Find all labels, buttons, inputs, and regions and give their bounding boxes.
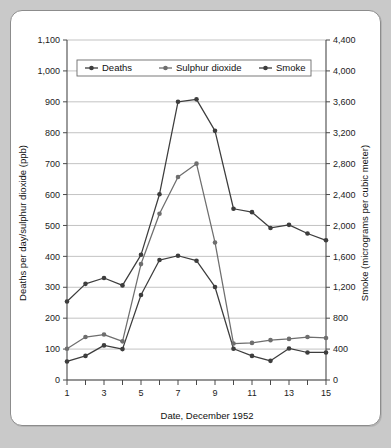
- data-point: [102, 332, 107, 337]
- data-point: [157, 211, 162, 216]
- data-point: [83, 282, 88, 287]
- left-tick-label: 700: [45, 159, 60, 169]
- x-tick-label: 15: [321, 388, 331, 398]
- left-tick-label: 800: [45, 128, 60, 138]
- right-axis-ticks: 04008001,2001,6002,0002,4002,8003,2003,6…: [326, 35, 356, 385]
- right-tick-label: 4,400: [333, 35, 356, 45]
- data-point: [231, 341, 236, 346]
- data-series: [65, 97, 329, 364]
- data-point: [83, 335, 88, 340]
- data-point: [157, 192, 162, 197]
- right-tick-label: 0: [333, 375, 338, 385]
- data-point: [65, 359, 70, 364]
- right-tick-label: 1,600: [333, 252, 356, 262]
- data-point: [139, 253, 144, 258]
- left-tick-label: 600: [45, 190, 60, 200]
- right-tick-label: 4,000: [333, 66, 356, 76]
- data-point: [324, 336, 329, 341]
- left-tick-label: 200: [45, 313, 60, 323]
- data-point: [194, 97, 199, 102]
- data-point: [120, 347, 125, 352]
- right-tick-label: 2,000: [333, 221, 356, 231]
- right-tick-label: 1,200: [333, 282, 356, 292]
- data-point: [287, 223, 292, 228]
- right-tick-label: 3,600: [333, 97, 356, 107]
- figure-card: 01002003004005006007008009001,0001,100 0…: [10, 10, 381, 426]
- data-point: [287, 337, 292, 342]
- data-point: [268, 338, 273, 343]
- right-tick-label: 2,800: [333, 159, 356, 169]
- axes: [67, 40, 326, 380]
- chart-legend: DeathsSulphur dioxideSmoke: [77, 60, 311, 76]
- x-axis-title: Date, December 1952: [161, 410, 254, 421]
- data-point: [102, 276, 107, 281]
- data-point: [250, 341, 255, 346]
- left-tick-label: 1,100: [37, 35, 60, 45]
- series-deaths: [65, 253, 329, 363]
- x-tick-label: 11: [247, 388, 256, 398]
- y2-axis-title: Smoke (micrograms per cubic meter): [359, 145, 370, 301]
- data-point: [194, 258, 199, 263]
- gridlines: [67, 40, 326, 380]
- legend-marker-dot: [163, 66, 168, 71]
- data-point: [157, 258, 162, 263]
- line-chart: 01002003004005006007008009001,0001,100 0…: [11, 11, 382, 427]
- left-axis-ticks: 01002003004005006007008009001,0001,100: [37, 35, 67, 385]
- data-point: [176, 253, 181, 258]
- legend-label-deaths: Deaths: [102, 62, 132, 73]
- data-point: [287, 346, 292, 351]
- legend-label-sulphur-dioxide: Sulphur dioxide: [176, 62, 242, 73]
- data-point: [65, 346, 70, 351]
- legend-marker-dot: [89, 66, 94, 71]
- data-point: [305, 335, 310, 340]
- x-tick-label: 13: [284, 388, 294, 398]
- chart-canvas: 01002003004005006007008009001,0001,100 0…: [11, 11, 382, 427]
- right-tick-label: 3,200: [333, 128, 356, 138]
- x-tick-label: 1: [64, 388, 69, 398]
- x-tick-label: 5: [138, 388, 143, 398]
- x-tick-label: 9: [212, 388, 217, 398]
- x-axis-ticks: 13579111315: [64, 380, 331, 398]
- data-point: [83, 354, 88, 359]
- data-point: [231, 206, 236, 211]
- data-point: [102, 343, 107, 348]
- data-point: [65, 299, 70, 304]
- data-point: [213, 240, 218, 245]
- series-smoke: [65, 97, 329, 304]
- data-point: [139, 262, 144, 267]
- data-point: [213, 285, 218, 290]
- y-axis-title: Deaths per day/sulphur dioxide (ppb): [17, 145, 28, 301]
- data-point: [194, 161, 199, 166]
- legend-marker-dot: [263, 66, 268, 71]
- data-point: [176, 175, 181, 180]
- right-tick-label: 2,400: [333, 190, 356, 200]
- series-line: [67, 99, 326, 301]
- left-tick-label: 100: [45, 344, 60, 354]
- right-tick-label: 400: [333, 344, 348, 354]
- data-point: [268, 226, 273, 231]
- data-point: [250, 210, 255, 215]
- data-point: [324, 238, 329, 243]
- right-tick-label: 800: [333, 313, 348, 323]
- x-tick-label: 7: [175, 388, 180, 398]
- left-tick-label: 500: [45, 221, 60, 231]
- left-tick-label: 900: [45, 97, 60, 107]
- data-point: [176, 100, 181, 105]
- data-point: [305, 350, 310, 355]
- left-tick-label: 400: [45, 252, 60, 262]
- data-point: [268, 359, 273, 364]
- left-tick-label: 300: [45, 282, 60, 292]
- data-point: [231, 346, 236, 351]
- left-tick-label: 1,000: [37, 66, 60, 76]
- data-point: [120, 339, 125, 344]
- data-point: [139, 293, 144, 298]
- x-tick-label: 3: [101, 388, 106, 398]
- data-point: [305, 231, 310, 236]
- data-point: [120, 283, 125, 288]
- data-point: [250, 354, 255, 359]
- data-point: [213, 129, 218, 134]
- legend-label-smoke: Smoke: [276, 62, 306, 73]
- left-tick-label: 0: [55, 375, 60, 385]
- data-point: [324, 350, 329, 355]
